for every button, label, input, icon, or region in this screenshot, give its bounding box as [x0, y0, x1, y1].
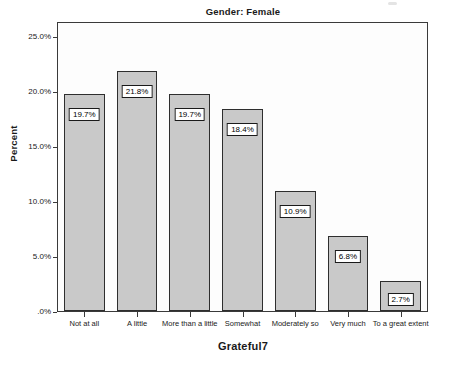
bar-value-label: 18.4%	[227, 123, 258, 136]
bar[interactable]: 19.7%	[169, 94, 210, 311]
plot-area: 19.7%21.8%19.7%18.4%10.9%6.8%2.7%	[57, 22, 428, 312]
y-axis-tick-label: 10.0%	[28, 196, 51, 207]
x-axis-tick-label: A little	[109, 319, 165, 328]
bar[interactable]: 2.7%	[380, 281, 421, 311]
x-axis-tick-mark	[137, 312, 138, 317]
x-axis-tick-label: Not at all	[56, 319, 112, 328]
bar[interactable]: 10.9%	[275, 191, 316, 311]
bar-value-label: 19.7%	[174, 108, 205, 121]
x-axis-tick-label: Somewhat	[215, 319, 271, 328]
x-axis-tick-mark	[243, 312, 244, 317]
y-axis-tick: .0%	[0, 312, 57, 313]
y-axis-tick-label: 15.0%	[28, 141, 51, 152]
bar-value-label: 19.7%	[69, 108, 100, 121]
chart-title: Gender: Female	[57, 6, 429, 17]
y-axis-title: Percent	[8, 109, 19, 179]
bar-chart: Gender: Female Percent .0%5.0%10.0%15.0%…	[0, 0, 449, 365]
x-axis-tick-label: Moderately so	[267, 319, 323, 328]
scan-artifact	[388, 2, 397, 5]
x-axis-title: Grateful7	[57, 340, 429, 352]
bar-slot: 18.4%	[216, 23, 269, 311]
y-axis-tick: 25.0%	[0, 37, 57, 38]
bar-slot: 6.8%	[322, 23, 375, 311]
y-axis-tick-label: 25.0%	[28, 31, 51, 42]
bars-layer: 19.7%21.8%19.7%18.4%10.9%6.8%2.7%	[58, 23, 427, 311]
bar-slot: 21.8%	[111, 23, 164, 311]
x-axis-tick-label: Very much	[320, 319, 376, 328]
y-axis-tick-label: 5.0%	[33, 251, 51, 262]
y-axis-tick: 5.0%	[0, 257, 57, 258]
x-axis-tick-mark	[401, 312, 402, 317]
x-axis-tick-mark	[190, 312, 191, 317]
bar[interactable]: 6.8%	[328, 236, 369, 311]
bar-value-label: 21.8%	[122, 85, 153, 98]
y-axis-tick: 20.0%	[0, 92, 57, 93]
bar-slot: 10.9%	[269, 23, 322, 311]
x-axis-tick-mark	[295, 312, 296, 317]
bar-slot: 19.7%	[58, 23, 111, 311]
y-axis-tick-mark	[53, 312, 57, 313]
bar[interactable]: 19.7%	[64, 94, 105, 311]
bar-value-label: 6.8%	[335, 250, 361, 263]
bar[interactable]: 18.4%	[222, 109, 263, 311]
bar-value-label: 2.7%	[388, 293, 414, 306]
bar[interactable]: 21.8%	[117, 71, 158, 311]
y-axis-tick-label: .0%	[37, 306, 51, 317]
bar-value-label: 10.9%	[280, 205, 311, 218]
x-axis-tick-label: More than a little	[162, 319, 218, 328]
y-axis-tick: 10.0%	[0, 202, 57, 203]
bar-slot: 19.7%	[163, 23, 216, 311]
y-axis-tick-label: 20.0%	[28, 86, 51, 97]
x-axis-tick-label: To a great extent	[373, 319, 429, 328]
x-axis-tick-mark	[348, 312, 349, 317]
bar-slot: 2.7%	[374, 23, 427, 311]
x-axis-tick-mark	[84, 312, 85, 317]
y-axis-tick: 15.0%	[0, 147, 57, 148]
